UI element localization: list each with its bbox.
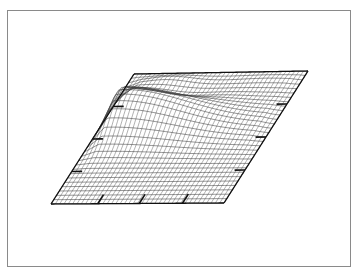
mesh-line-u	[202, 71, 286, 203]
mesh-line-u	[77, 74, 160, 204]
base-edge	[51, 203, 224, 204]
mesh-line-u	[68, 74, 151, 204]
mesh-line-u	[116, 73, 199, 204]
mesh-line-v	[84, 144, 257, 152]
mesh-line-v	[81, 151, 254, 156]
mesh-line-u	[73, 74, 156, 204]
surface-mesh	[51, 71, 308, 204]
mesh-line-u	[64, 74, 147, 204]
mesh-line-u	[211, 71, 295, 203]
mesh-line-v	[98, 101, 272, 131]
base-edge	[134, 71, 308, 74]
mesh-line-u	[107, 73, 190, 204]
mesh-line-u	[207, 71, 291, 203]
mesh-line-v	[87, 136, 260, 148]
surface-plot	[0, 0, 357, 279]
